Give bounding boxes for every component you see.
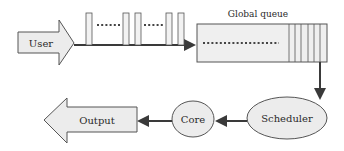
scheduler-node: Scheduler	[247, 97, 327, 139]
global-queue-label: Global queue	[228, 9, 288, 19]
global-queue-node: Global queue	[197, 9, 327, 62]
task-bar	[166, 13, 172, 45]
core-node: Core	[172, 101, 214, 137]
scheduler-label: Scheduler	[261, 113, 313, 124]
task-bar	[178, 13, 184, 45]
output-node: Output	[44, 98, 137, 143]
core-label: Core	[181, 114, 205, 125]
task-bar	[135, 13, 141, 45]
output-label: Output	[79, 115, 115, 126]
user-label: User	[29, 38, 53, 49]
task-bar	[86, 13, 92, 45]
task-bar	[123, 13, 129, 45]
task-bars	[86, 13, 184, 45]
diagram-canvas: User Global queue Scheduler	[0, 0, 344, 151]
user-node: User	[18, 20, 74, 65]
